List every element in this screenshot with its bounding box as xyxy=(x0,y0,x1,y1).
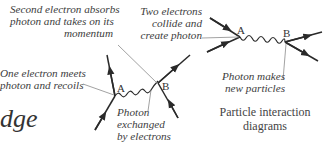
figure-caption: Particle interaction diagrams xyxy=(205,105,325,133)
vertex-b-left: B xyxy=(162,80,169,92)
vertex-b-right: B xyxy=(283,27,290,39)
label-second-electron: Second electron absorbs photon and takes… xyxy=(10,3,113,39)
page-text-fragment: dge xyxy=(0,104,38,134)
label-photon-makes: Photon makes new particles xyxy=(222,70,285,94)
right-diagram xyxy=(207,18,322,61)
leader-two-electrons xyxy=(202,37,239,38)
vertex-a-left: A xyxy=(117,82,125,94)
label-photon-exchanged: Photon exchanged by electrons xyxy=(117,106,171,142)
leader-second-electron xyxy=(118,45,157,83)
label-two-electrons: Two electrons collide and create photon xyxy=(140,5,202,41)
leader-one-electron xyxy=(83,84,114,95)
photon-wave-right xyxy=(240,36,285,44)
vertex-a-right: A xyxy=(237,24,245,36)
label-one-electron: One electron meets photon and recoils xyxy=(0,67,82,91)
